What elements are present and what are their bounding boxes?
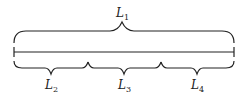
label-l2: L2	[44, 78, 58, 94]
brace-shape	[88, 62, 161, 74]
brace-shape	[14, 61, 88, 74]
label-l4: L4	[190, 78, 204, 94]
brace-shape	[161, 61, 234, 74]
label-l3: L3	[117, 78, 131, 94]
bottom-brace-l3: L3	[88, 62, 161, 94]
bottom-brace-l4: L4	[161, 61, 234, 94]
length-diagram: L1 L2 L3 L4	[0, 0, 247, 100]
brace-shape	[14, 22, 234, 43]
top-brace-l1: L1	[14, 6, 234, 43]
label-l1: L1	[115, 6, 129, 22]
bottom-brace-l2: L2	[14, 61, 88, 94]
main-segment	[14, 47, 234, 57]
